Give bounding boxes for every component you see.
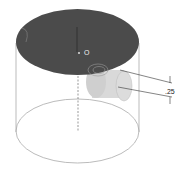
- center-label: O: [84, 49, 89, 56]
- diagram-canvas: O .25: [0, 0, 185, 176]
- cylinder-diagram: [0, 0, 185, 176]
- cylinder-bottom-ellipse: [16, 99, 139, 163]
- dimension-label: .25: [165, 88, 175, 95]
- cylinder-top-face: [16, 9, 139, 75]
